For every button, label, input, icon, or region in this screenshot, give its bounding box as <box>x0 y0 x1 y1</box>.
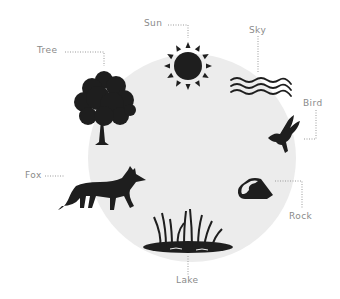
icons-layer <box>0 0 340 299</box>
wavy-lines-icon <box>231 78 291 96</box>
fox-icon <box>58 166 146 210</box>
tree-icon <box>74 71 136 145</box>
rock-icon <box>238 178 273 199</box>
nature-diagram: Sun Sky Bird Rock Lake Fox Tree <box>0 0 340 299</box>
bird-icon <box>268 115 300 153</box>
sun-icon <box>164 42 212 90</box>
lake-reeds-icon <box>143 209 233 253</box>
